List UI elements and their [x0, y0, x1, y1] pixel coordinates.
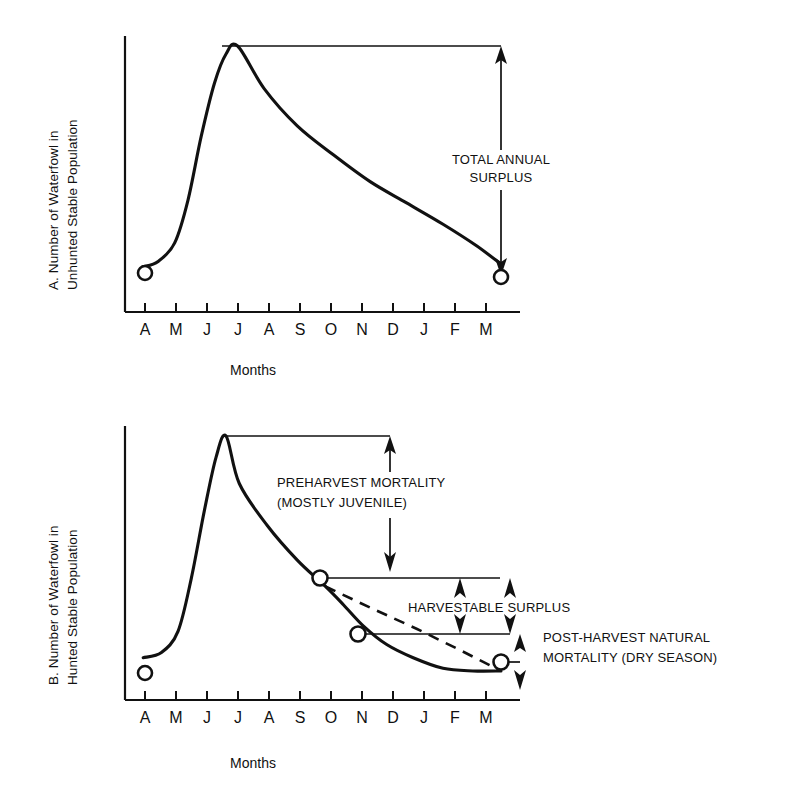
panel-a-tick-label: J — [234, 321, 242, 338]
panel-b-tick-label: J — [203, 709, 211, 726]
panel-b-preharvest-point — [313, 571, 328, 586]
panel-b-annot-line: POST-HARVEST NATURAL — [543, 630, 710, 645]
panel-b-ylabel-line1: B. Number of Waterfowl in — [46, 525, 61, 685]
panel-a-spring-start-point — [138, 266, 152, 280]
panel-a-series-line — [143, 44, 501, 267]
panel-b-postharvest-point — [351, 627, 366, 642]
chart-panel-a: A. Number of Waterfowl in Unhunted Stabl… — [0, 0, 790, 400]
panel-b-tick-label: J — [420, 709, 428, 726]
panel-b-series-line — [143, 435, 501, 671]
panel-a-x-axis-title: Months — [230, 362, 276, 378]
panel-a-tick-label: J — [420, 321, 428, 338]
panel-b-tick-label: M — [479, 709, 492, 726]
panel-a-x-ticks — [145, 303, 486, 312]
figure-root: A. Number of Waterfowl in Unhunted Stabl… — [0, 0, 790, 803]
panel-b-tick-label: A — [264, 709, 275, 726]
panel-a-tick-label: J — [203, 321, 211, 338]
panel-a-tick-label: O — [325, 321, 337, 338]
panel-a-tick-label: A — [264, 321, 275, 338]
panel-a-total-annual-surplus-label: TOTAL ANNUAL SURPLUS — [452, 152, 550, 185]
panel-b-annot-line: PREHARVEST MORTALITY — [277, 475, 446, 490]
panel-b-preharvest-mortality-label: PREHARVEST MORTALITY (MOSTLY JUVENILE) — [277, 475, 446, 510]
panel-b-y-axis-title: B. Number of Waterfowl in Hunted Stable … — [46, 525, 80, 685]
panel-a-tick-label: M — [169, 321, 182, 338]
panel-b-x-ticks — [145, 691, 486, 700]
panel-a-tick-label: A — [140, 321, 151, 338]
panel-b-tick-labels: A M J J A S O N D J F M — [140, 709, 493, 726]
panel-b-tick-label: A — [140, 709, 151, 726]
panel-a-y-axis-title: A. Number of Waterfowl in Unhunted Stabl… — [46, 119, 80, 290]
panel-b-tick-label: S — [295, 709, 306, 726]
panel-b-harvestable-surplus-label: HARVESTABLE SURPLUS — [408, 600, 570, 615]
panel-b-dry-season-end-point — [494, 655, 509, 670]
panel-a-tick-label: S — [295, 321, 306, 338]
panel-b-annot-line: MORTALITY (DRY SEASON) — [543, 650, 717, 665]
panel-a-annot-line: SURPLUS — [470, 170, 533, 185]
panel-a-tick-label: D — [387, 321, 399, 338]
panel-b-tick-label: M — [169, 709, 182, 726]
panel-a-tick-label: M — [479, 321, 492, 338]
panel-a-tick-label: F — [450, 321, 460, 338]
panel-b-tick-label: J — [234, 709, 242, 726]
panel-a-spring-end-point — [494, 270, 508, 284]
panel-a-svg: A. Number of Waterfowl in Unhunted Stabl… — [0, 0, 790, 400]
panel-b-tick-label: F — [450, 709, 460, 726]
panel-b-annot-line: (MOSTLY JUVENILE) — [277, 495, 407, 510]
panel-b-svg: B. Number of Waterfowl in Hunted Stable … — [0, 400, 790, 803]
panel-b-post-harvest-mortality-label: POST-HARVEST NATURAL MORTALITY (DRY SEAS… — [543, 630, 717, 665]
panel-b-spring-start-point — [138, 666, 152, 680]
panel-a-annot-line: TOTAL ANNUAL — [452, 152, 550, 167]
panel-b-x-axis-title: Months — [230, 755, 276, 771]
panel-a-ylabel-line2: Unhunted Stable Population — [65, 119, 80, 290]
chart-panel-b: B. Number of Waterfowl in Hunted Stable … — [0, 400, 790, 803]
panel-b-tick-label: O — [325, 709, 337, 726]
panel-b-tick-label: D — [387, 709, 399, 726]
panel-a-tick-label: N — [356, 321, 368, 338]
panel-a-ylabel-line1: A. Number of Waterfowl in — [46, 130, 61, 290]
panel-b-ylabel-line2: Hunted Stable Population — [65, 529, 80, 685]
panel-b-tick-label: N — [356, 709, 368, 726]
panel-a-tick-labels: A M J J A S O N D J F M — [140, 321, 493, 338]
